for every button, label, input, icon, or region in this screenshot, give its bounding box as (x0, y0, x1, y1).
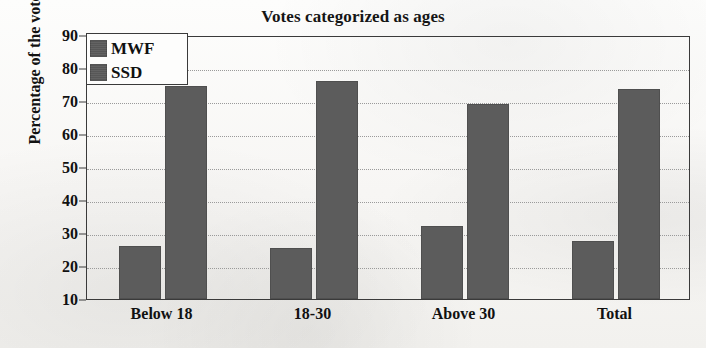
y-tick-mark (79, 102, 86, 103)
y-tick-label: 40 (62, 193, 78, 209)
bar-ssd-18-30 (316, 81, 358, 299)
y-tick-mark (79, 234, 86, 235)
x-axis-tick-labels: Below 1818-30Above 30Total (86, 303, 690, 337)
y-tick-label: 60 (62, 127, 78, 143)
bar-mwf-above-30 (421, 226, 463, 299)
y-tick-label: 70 (62, 94, 78, 110)
bar-ssd-below-18 (165, 86, 207, 299)
y-tick-mark (79, 267, 86, 268)
y-tick-label: 80 (62, 61, 78, 77)
y-tick-label: 50 (62, 160, 78, 176)
legend-swatch-ssd (90, 64, 107, 81)
y-tick-mark (79, 201, 86, 202)
legend-item-mwf: MWF (90, 36, 187, 60)
bar-ssd-total (618, 89, 660, 299)
chart-title: Votes categorized as ages (0, 7, 706, 27)
x-tick-label: Above 30 (432, 305, 496, 323)
y-tick-mark (79, 36, 86, 37)
legend-label-ssd: SSD (111, 64, 142, 81)
y-tick-label: 10 (62, 292, 78, 308)
x-tick-label: Below 18 (131, 305, 193, 323)
y-tick-mark (79, 135, 86, 136)
x-tick-label: Total (597, 305, 632, 323)
bar-mwf-below-18 (119, 246, 161, 299)
chart-legend: MWF SSD (86, 33, 188, 85)
y-tick-label: 30 (62, 226, 78, 242)
legend-item-ssd: SSD (90, 60, 187, 84)
bar-mwf-total (572, 241, 614, 299)
y-tick-label: 20 (62, 259, 78, 275)
bar-mwf-18-30 (270, 248, 312, 299)
x-tick-label: 18-30 (294, 305, 331, 323)
y-tick-mark (79, 69, 86, 70)
legend-swatch-mwf (90, 40, 107, 57)
bar-chart-figure: Votes categorized as ages Percentage of … (0, 0, 706, 348)
y-tick-mark (79, 168, 86, 169)
y-axis-tick-labels: 908070605040302010 (0, 36, 86, 300)
y-tick-mark (79, 300, 86, 301)
legend-label-mwf: MWF (111, 40, 154, 57)
y-tick-label: 90 (62, 28, 78, 44)
bar-ssd-above-30 (467, 104, 509, 299)
